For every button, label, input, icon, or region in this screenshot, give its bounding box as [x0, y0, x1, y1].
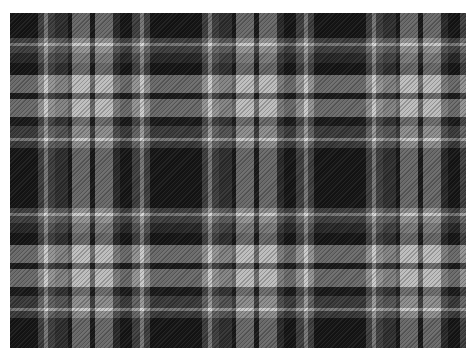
weft-stripe: [10, 318, 466, 348]
weft-stripe: [10, 117, 466, 126]
weft-stripe: [10, 148, 466, 183]
weft-stripe: [10, 245, 466, 263]
weft-stripe: [10, 216, 466, 223]
weft-stripe: [10, 311, 466, 318]
weft-stripe: [10, 46, 466, 53]
weft-stripe: [10, 99, 466, 117]
weft-stripe: [10, 13, 466, 38]
weft-stripe: [10, 233, 466, 245]
horizontal-stripes-layer: [10, 13, 466, 348]
weft-stripe: [10, 296, 466, 308]
weft-stripe: [10, 141, 466, 148]
weft-stripe: [10, 126, 466, 138]
weft-stripe: [10, 75, 466, 93]
weft-stripe: [10, 63, 466, 75]
weft-stripe: [10, 287, 466, 296]
weft-stripe: [10, 269, 466, 287]
weft-stripe: [10, 183, 466, 208]
weft-stripe: [10, 53, 466, 63]
weft-stripe: [10, 223, 466, 233]
plaid-fabric-image: [10, 13, 466, 348]
